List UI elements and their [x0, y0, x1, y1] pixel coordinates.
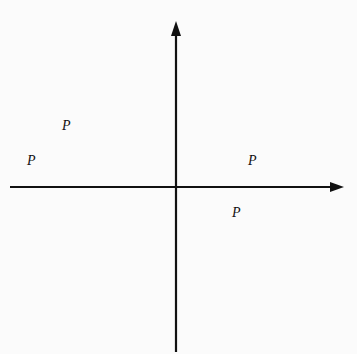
label-p4: P	[26, 153, 36, 168]
label-p1: P	[61, 118, 71, 133]
label-p3: P	[231, 205, 241, 220]
label-p2: P	[247, 153, 257, 168]
x-axis-arrow-icon	[330, 182, 344, 192]
coordinate-diagram: P P P P	[0, 0, 357, 354]
y-axis-arrow-icon	[171, 21, 181, 36]
